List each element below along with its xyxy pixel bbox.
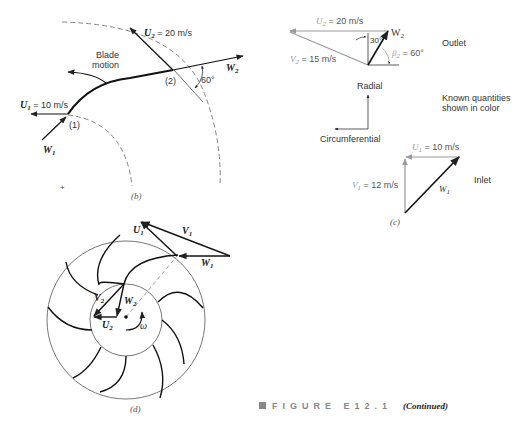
center-mark: + <box>60 183 65 192</box>
u2-label-b: U2 = 20 m/s <box>144 27 193 40</box>
angle-30-label: 30° <box>370 36 382 45</box>
blade-motion-label-1: Blade <box>96 50 119 60</box>
angle-30-arrow <box>356 37 366 40</box>
known-quantities-note-1: Known quantities <box>442 93 511 103</box>
w1-label-d: W1 <box>201 257 213 270</box>
u2-label-d: U2 <box>102 319 113 332</box>
known-quantities-note-2: shown in color <box>442 103 500 113</box>
radial-axis-label: Radial <box>357 81 383 91</box>
blade-curve <box>68 70 173 114</box>
hub-center <box>124 315 128 319</box>
v1-label-c: V1 = 12 m/s <box>352 180 399 192</box>
w1-vector-c <box>405 157 459 213</box>
u1-vector-d <box>141 222 177 256</box>
w1-label-c: W1 <box>439 184 450 196</box>
v2-label-c: V2 = 15 m/s <box>290 54 337 66</box>
u1-label-c: U1 = 10 m/s <box>412 142 460 154</box>
w2-label-d: W2 <box>124 295 137 308</box>
tangent-line-2 <box>174 70 203 102</box>
inlet-title: Inlet <box>474 175 492 185</box>
blade-motion-label-2: motion <box>92 60 119 70</box>
panel-c-label: (c) <box>390 217 400 227</box>
figure-caption-note: (Continued) <box>403 401 448 411</box>
v1-label-d: V1 <box>182 225 192 238</box>
u2-label-c: U2 = 20 m/s <box>316 16 364 28</box>
panel-c-inlet-triangle <box>405 157 460 213</box>
figure-caption-label: FIGURE E12.1 <box>272 401 392 411</box>
circumferential-axis-label: Circumferential <box>320 134 381 144</box>
w2-vector-d <box>117 284 124 316</box>
outlet-title: Outlet <box>442 38 467 48</box>
u1-label-d: U1 <box>133 224 144 237</box>
blade-motion-arrow <box>68 72 107 84</box>
angle-60-label: 60° <box>201 75 215 85</box>
point-2-label: (2) <box>165 76 176 86</box>
u1-label-b: U1 = 10 m/s <box>20 99 69 112</box>
beta2-label: β2 = 60° <box>391 48 424 60</box>
caption-marker <box>259 402 266 409</box>
beta2-arc <box>382 48 389 64</box>
w2-label-b: W2 <box>226 62 239 75</box>
panel-d-label: (d) <box>130 404 141 414</box>
w1-vector <box>42 117 66 140</box>
panel-d-impeller <box>47 222 230 399</box>
impeller-outer-circle <box>47 241 205 399</box>
w1-label-b: W1 <box>43 144 55 157</box>
figure-canvas: U2 = 20 m/s Blade motion W2 (2) 60° U1 =… <box>0 0 521 427</box>
point-1-label: (1) <box>69 120 80 130</box>
panel-b-label: (b) <box>131 191 142 201</box>
outer-radius-arc <box>62 22 220 186</box>
w2-label-c: W2 <box>391 27 404 40</box>
v2-label-d: V2 <box>94 292 105 305</box>
omega-label: ω <box>140 320 147 331</box>
